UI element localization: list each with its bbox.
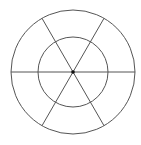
center-dot xyxy=(71,70,75,74)
wheel-diagram xyxy=(0,0,141,145)
